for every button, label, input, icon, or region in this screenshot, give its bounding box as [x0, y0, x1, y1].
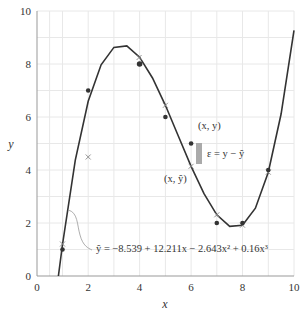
residual-label: ε = y − ŷ — [207, 148, 245, 159]
equation-label: ŷ = −8.539 + 12.211x − 2.643x² + 0.16x³ — [96, 243, 268, 254]
grid — [37, 11, 294, 276]
svg-text:8: 8 — [26, 58, 32, 70]
fitted-curve — [58, 30, 294, 276]
chart: 10 8 6 4 2 0 0 2 4 6 8 10 x y — [0, 0, 308, 319]
svg-text:0: 0 — [26, 270, 32, 282]
svg-text:10: 10 — [289, 281, 301, 293]
svg-text:10: 10 — [20, 5, 32, 17]
svg-text:0: 0 — [34, 281, 40, 293]
y-tick-labels: 10 8 6 4 2 0 — [20, 5, 32, 282]
svg-text:4: 4 — [26, 164, 32, 176]
residual-bar — [196, 143, 202, 164]
y-axis-title: y — [7, 137, 14, 151]
x-tick-labels: 0 2 4 6 8 10 — [34, 281, 300, 293]
svg-text:6: 6 — [188, 281, 194, 293]
svg-text:2: 2 — [85, 281, 91, 293]
svg-text:4: 4 — [137, 281, 143, 293]
svg-text:8: 8 — [240, 281, 246, 293]
point-label: (x, y) — [198, 120, 221, 132]
x-axis-title: x — [161, 297, 168, 311]
svg-text:2: 2 — [26, 217, 32, 229]
fitted-point-label: (x, ŷ) — [164, 173, 187, 185]
svg-text:6: 6 — [26, 111, 32, 123]
